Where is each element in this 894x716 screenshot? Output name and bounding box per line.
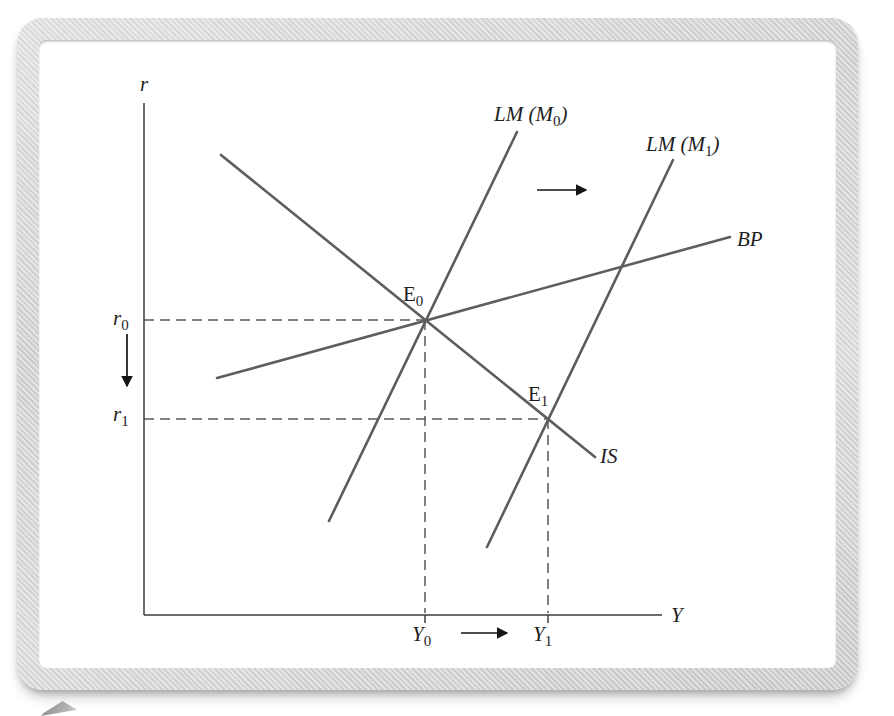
is-curve (221, 155, 595, 457)
e0-label: E0 (403, 282, 423, 309)
y-axis-label: Y (671, 603, 685, 627)
r0-label: r0 (113, 306, 129, 333)
islm-bp-diagram: rYLM (M0)LM (M1)BPISE0E1r0r1Y0Y1 (0, 0, 894, 716)
bp-curve (217, 237, 730, 378)
lm-m1-label: LM (M1) (645, 132, 719, 159)
bp-label: BP (737, 227, 763, 251)
e1-label: E1 (528, 382, 548, 409)
page: rYLM (M0)LM (M1)BPISE0E1r0r1Y0Y1 (0, 0, 894, 716)
r1-label: r1 (113, 402, 129, 429)
r-axis-label: r (140, 72, 149, 96)
lm-m0-curve (329, 132, 517, 521)
y0-label: Y0 (412, 622, 431, 649)
lm-m0-label: LM (M0) (493, 102, 567, 129)
y1-label: Y1 (533, 622, 552, 649)
is-label: IS (599, 444, 618, 468)
lm-m1-curve (487, 160, 673, 547)
